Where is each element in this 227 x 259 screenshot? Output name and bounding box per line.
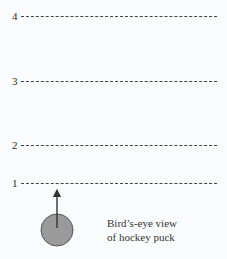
caption-line-1: Bird’s-eye view xyxy=(107,216,177,230)
caption: Bird’s-eye view of hockey puck xyxy=(107,216,177,244)
caption-line-2: of hockey puck xyxy=(107,230,177,244)
